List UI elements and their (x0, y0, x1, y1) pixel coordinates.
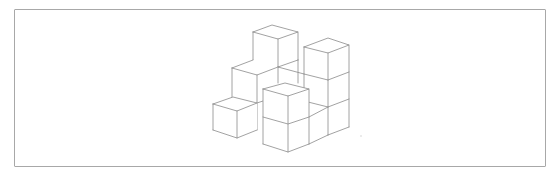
right-tower (304, 38, 349, 135)
left-cube (213, 97, 257, 138)
front-tower (263, 83, 309, 152)
cube-stack-diagram (0, 0, 554, 176)
stray-dot (360, 135, 361, 136)
